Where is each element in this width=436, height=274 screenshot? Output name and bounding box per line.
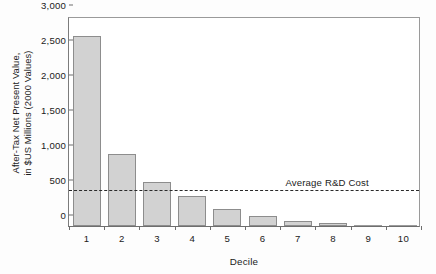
chart-figure: After-Tax Net Present Value, in $US Mill… [0,0,436,274]
x-axis-tick-label: 4 [189,233,195,244]
y-axis-tick: 1,500 [41,105,69,116]
y-axis-tick: 0 [60,210,69,221]
y-axis-tick: 1,000 [41,140,69,151]
bar-decile-1 [73,36,101,226]
x-axis-tick-mark [351,226,352,230]
x-axis-tick-label: 6 [260,233,266,244]
x-axis-tick-label: 3 [154,233,160,244]
plot-area: 05001,0001,5002,0002,5003,000 Average R&… [68,17,420,227]
y-axis-tick-mark [69,5,73,6]
y-axis-tick-label: 3,000 [41,0,69,11]
y-axis-tick-label: 2,000 [41,70,69,81]
average-rd-cost-label: Average R&D Cost [285,177,368,188]
bar-decile-8 [319,223,347,226]
x-axis-tick-mark [69,226,70,230]
y-axis-tick: 2,000 [41,70,69,81]
x-axis-tick-label: 7 [295,233,301,244]
bar-decile-6 [249,216,277,226]
x-axis-tick-mark [245,226,246,230]
bar-decile-7 [284,221,312,226]
x-axis-tick-label: 2 [119,233,125,244]
x-axis-tick-label: 1 [84,233,90,244]
x-axis-tick-mark [386,226,387,230]
x-axis-tick-label: 8 [330,233,336,244]
y-axis-tick-label: 1,000 [41,140,69,151]
bar-decile-9 [354,225,382,226]
x-axis-title: Decile [68,256,420,267]
x-axis-tick-mark [210,226,211,230]
y-axis-tick-label: 500 [49,175,69,186]
x-axis-tick-label: 9 [365,233,371,244]
x-axis-tick-mark [280,226,281,230]
x-axis-tick-mark [421,226,422,230]
x-axis-tick-mark [315,226,316,230]
bar-decile-5 [213,209,241,226]
y-axis-tick-label: 2,500 [41,35,69,46]
y-axis-tick: 500 [49,175,69,186]
y-axis-tick: 3,000 [41,0,69,11]
bar-series [69,18,419,226]
x-axis-tick-mark [175,226,176,230]
y-axis-tick: 2,500 [41,35,69,46]
y-axis-tick-label: 1,500 [41,105,69,116]
y-axis-tick-label: 0 [60,210,69,221]
x-axis-tick-label: 5 [225,233,231,244]
average-rd-cost-line [69,190,419,191]
y-axis-title-line-1: After-Tax Net Present Value, [10,53,22,174]
y-axis-title-line-2: in $US Millions (2000 Values) [22,50,34,175]
x-axis-tick-mark [104,226,105,230]
x-axis-tick-mark [139,226,140,230]
x-axis-tick-label: 10 [398,233,409,244]
y-axis-title: After-Tax Net Present Value, in $US Mill… [5,13,39,213]
bar-decile-4 [178,196,206,226]
bar-decile-10 [389,225,417,226]
bar-decile-3 [143,182,171,226]
